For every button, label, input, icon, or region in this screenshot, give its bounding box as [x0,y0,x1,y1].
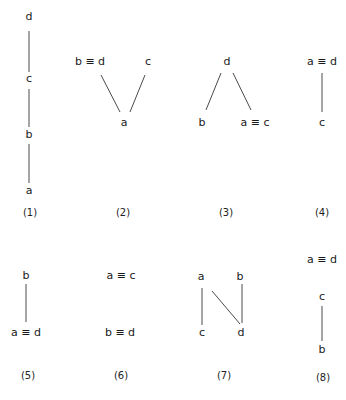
caption-1: (1) [23,207,37,218]
caption-8: (8) [316,372,330,383]
node-c: c [319,116,325,129]
node-d: d [26,10,33,23]
edge-d-ac [233,73,251,110]
diagram-1: d c b a (1) [23,10,37,218]
diagram-6: a ≡ c b ≡ d (6) [105,269,136,381]
hasse-diagrams-figure: d c b a (1) b ≡ d c a (2) d b a ≡ c (3) … [0,0,346,400]
caption-5: (5) [21,370,35,381]
node-b: b [26,128,33,141]
node-a-equiv-d: a ≡ d [307,253,337,266]
node-d: d [224,55,231,68]
diagram-3: d b a ≡ c (3) [199,55,270,218]
caption-4: (4) [315,207,329,218]
node-b: b [199,116,206,129]
node-b: b [237,270,244,283]
caption-7: (7) [217,370,231,381]
node-a-equiv-d: a ≡ d [307,55,337,68]
node-a-equiv-c: a ≡ c [107,269,136,282]
diagram-7: a b c d (7) [198,270,245,381]
diagram-canvas: d c b a (1) b ≡ d c a (2) d b a ≡ c (3) … [0,0,346,400]
node-a-equiv-c: a ≡ c [241,116,270,129]
node-c: c [319,290,325,303]
diagram-2: b ≡ d c a (2) [75,55,151,218]
node-a: a [121,116,128,129]
caption-3: (3) [219,207,233,218]
diagram-4: a ≡ d c (4) [307,55,337,218]
edge-c-a [130,75,145,112]
edge-d-b [206,73,221,110]
node-b-equiv-d: b ≡ d [105,326,135,339]
edge-a-d [212,291,240,324]
node-d: d [238,326,245,339]
node-a-equiv-d: a ≡ d [11,326,41,339]
caption-2: (2) [116,207,130,218]
node-a: a [198,270,205,283]
node-b: b [23,269,30,282]
node-c: c [145,55,151,68]
edge-bd-a [101,75,120,112]
node-c: c [199,326,205,339]
node-a: a [26,184,33,197]
node-c: c [26,72,32,85]
diagram-8: a ≡ d c b (8) [307,253,337,383]
caption-6: (6) [114,370,128,381]
node-b-equiv-d: b ≡ d [75,55,105,68]
node-b: b [319,343,326,356]
diagram-5: b a ≡ d (5) [11,269,41,381]
